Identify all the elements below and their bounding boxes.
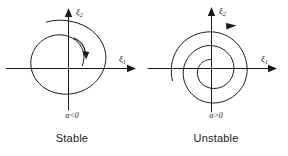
panel-unstable: ξ2 ξ1 α>0 Unstable	[144, 0, 288, 156]
unstable-spiral-path	[171, 32, 247, 103]
param-label-unstable: α>0	[144, 112, 288, 120]
panel-stable: ξ2 ξ1 α<0 Stable	[0, 0, 144, 156]
rotation-direction-arrowhead	[82, 51, 89, 59]
param-label-stable: α<0	[0, 112, 144, 120]
x-axis-label-unstable: ξ1	[261, 55, 268, 64]
x-axis-arrowhead	[268, 65, 277, 72]
y-axis-arrowhead	[65, 8, 72, 17]
y-axis-label-unstable: ξ2	[219, 7, 226, 16]
phase-portrait-figure: ξ2 ξ1 α<0 Stable ξ2	[0, 0, 288, 156]
x-axis-label-stable: ξ1	[119, 55, 126, 64]
x-axis-arrowhead	[127, 65, 136, 72]
caption-stable: Stable	[0, 133, 144, 144]
caption-unstable: Unstable	[144, 133, 288, 144]
y-axis-arrowhead	[208, 7, 215, 16]
y-axis-label-stable: ξ2	[76, 8, 83, 17]
spiral-end-arrowhead	[226, 23, 237, 30]
